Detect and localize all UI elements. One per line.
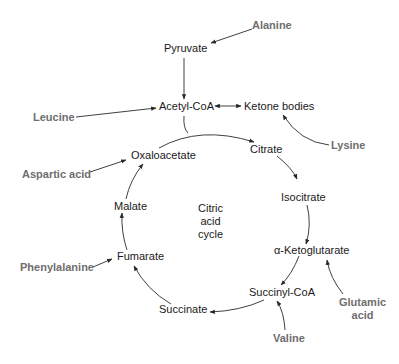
metabolite-fumarate: Fumarate [117,250,164,263]
cycle-label-line-2: acid [198,215,223,228]
citric-acid-cycle-diagram: Pyruvate Acetyl-CoA Ketone bodies Oxaloa… [0,0,399,364]
arrow-fumarate-malate [122,213,127,250]
arrow-alanine-pyruvate [211,29,252,43]
metabolite-malate: Malate [114,200,147,213]
arrow-akg-succinylcoa [281,256,299,285]
metabolite-alpha-ketoglutarate: α-Ketoglutarate [274,244,349,257]
metabolite-pyruvate: Pyruvate [164,42,207,55]
arrow-phenylalanine-fumarate [93,259,112,267]
amino-acid-leucine: Leucine [33,111,75,124]
cycle-label-line-1: Citric [198,202,223,215]
arrow-malate-oxaloacetate [126,164,143,199]
amino-acid-glutamic-acid: Glutamic acid [339,296,386,322]
arrow-leucine-acetylcoa [76,108,156,117]
glutamic-acid-line-2: acid [339,309,386,322]
arrow-succinate-fumarate [134,266,171,304]
arrow-oxaloacetate-citrate [159,135,254,148]
arrow-succinylcoa-succinate [210,300,264,312]
metabolite-succinyl-coa: Succinyl-CoA [249,286,315,299]
cycle-center-label: Citric acid cycle [198,202,223,241]
arrow-valine-succinylcoa [277,301,285,330]
arrow-citrate-isocitrate [277,156,297,179]
metabolite-oxaloacetate: Oxaloacetate [131,149,196,162]
amino-acid-lysine: Lysine [331,139,365,152]
amino-acid-alanine: Alanine [252,19,292,32]
metabolite-ketone-bodies: Ketone bodies [244,100,314,113]
glutamic-acid-line-1: Glutamic [339,296,386,309]
arrow-lysine-ketonebodies [283,115,329,145]
arrow-aspartic-oxaloacetate [90,160,126,172]
metabolite-isocitrate: Isocitrate [281,191,326,204]
arrow-isocitrate-akg [306,205,309,244]
amino-acid-aspartic-acid: Aspartic acid [22,168,91,181]
cycle-label-line-3: cycle [198,228,223,241]
metabolite-acetyl-coa: Acetyl-CoA [159,100,214,113]
metabolite-succinate: Succinate [159,303,207,316]
arrow-acetylcoa-join [184,116,188,133]
arrow-glutamic-akg [327,260,343,294]
amino-acid-phenylalanine: Phenylalanine [20,261,94,274]
amino-acid-valine: Valine [273,332,305,345]
metabolite-citrate: Citrate [250,143,282,156]
